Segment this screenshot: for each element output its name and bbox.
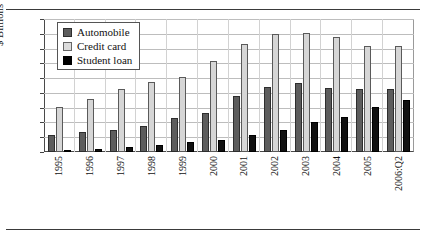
bar-student-1996 [95,149,102,152]
legend-label-student-loan: Student loan [77,54,132,66]
bar-credit-2000 [210,61,217,152]
bar-credit-2001 [241,44,248,152]
x-tick-label: 2005 [363,156,373,176]
bar-auto-1995 [48,135,55,152]
bar-group-2006-Q2 [383,19,414,152]
legend-swatch-automobile-icon [63,28,72,37]
x-tick-label: 1996 [85,156,95,176]
x-tick-cell: 2003 [291,154,322,216]
bar-auto-1996 [79,132,86,152]
bar-group-2003 [291,19,322,152]
bar-auto-2003 [295,83,302,152]
bar-auto-2001 [233,96,240,152]
figure-top-rule [6,9,420,10]
chart-legend: Automobile Credit card Student loan [57,22,140,70]
bar-credit-2003 [303,33,310,152]
x-tick-cell: 1996 [75,154,106,216]
x-tick-label: 2001 [239,156,249,176]
x-tick-label: 2000 [209,156,219,176]
bar-auto-1999 [171,118,178,152]
y-axis-title: $ Billions [0,4,5,46]
x-tick-label: 1997 [116,156,126,176]
legend-item-student-loan: Student loan [63,54,132,66]
bar-credit-1995 [56,107,63,152]
bar-credit-1999 [179,77,186,152]
x-tick-label: 1998 [147,156,157,176]
bar-student-2002 [280,130,287,152]
bar-group-1998 [136,19,167,152]
figure-container: 050100150200250300350400450 $ Billions A… [0,0,426,242]
bar-credit-2004 [333,37,340,152]
x-tick-label: 2004 [332,156,342,176]
bar-auto-2005 [356,89,363,152]
bar-auto-2002 [264,87,271,152]
x-tick-label: 2006:Q2 [394,156,404,191]
bar-student-2001 [249,135,256,152]
bar-auto-2006-Q2 [387,89,394,152]
legend-swatch-student-loan-icon [63,56,72,65]
bar-credit-1996 [87,99,94,152]
bar-auto-2004 [325,88,332,152]
x-tick-label: 1999 [178,156,188,176]
y-tick-mark [40,152,44,153]
bar-student-1997 [126,147,133,152]
x-tick-cell: 2005 [352,154,383,216]
x-tick-cell: 1997 [106,154,137,216]
x-tick-cell: 2002 [260,154,291,216]
bar-credit-2006-Q2 [395,46,402,152]
bar-student-1998 [156,145,163,152]
bar-group-2002 [260,19,291,152]
bar-credit-1998 [148,82,155,152]
bar-group-1999 [167,19,198,152]
x-tick-cell: 1995 [44,154,75,216]
x-tick-label: 2002 [270,156,280,176]
bar-student-2004 [341,117,348,152]
bar-student-1995 [64,150,71,152]
legend-swatch-credit-card-icon [63,42,72,51]
plot-area: Automobile Credit card Student loan [44,19,414,152]
legend-label-automobile: Automobile [77,26,130,38]
x-tick-cell: 2000 [198,154,229,216]
bar-group-2004 [321,19,352,152]
bar-credit-2002 [272,34,279,152]
x-tick-cell: 2001 [229,154,260,216]
bar-student-2006-Q2 [403,100,410,152]
x-axis-tick-labels: 1995199619971998199920002001200220032004… [44,154,414,216]
bar-auto-1997 [110,130,117,152]
x-tick-cell: 2006:Q2 [383,154,414,216]
legend-item-credit-card: Credit card [63,40,132,52]
bar-auto-1998 [140,126,147,152]
x-tick-cell: 1998 [136,154,167,216]
x-tick-label: 1995 [54,156,64,176]
bar-credit-2005 [364,46,371,152]
legend-label-credit-card: Credit card [77,40,126,52]
figure-bottom-rule [6,229,420,230]
bar-student-2003 [311,122,318,152]
bar-student-2000 [218,140,225,152]
bar-group-2005 [352,19,383,152]
bar-student-2005 [372,107,379,152]
bar-credit-1997 [118,89,125,152]
x-tick-cell: 1999 [167,154,198,216]
legend-item-automobile: Automobile [63,26,132,38]
bar-auto-2000 [202,113,209,152]
bar-group-2000 [198,19,229,152]
x-tick-label: 2003 [301,156,311,176]
bar-group-2001 [229,19,260,152]
bar-student-1999 [187,142,194,152]
x-tick-cell: 2004 [321,154,352,216]
